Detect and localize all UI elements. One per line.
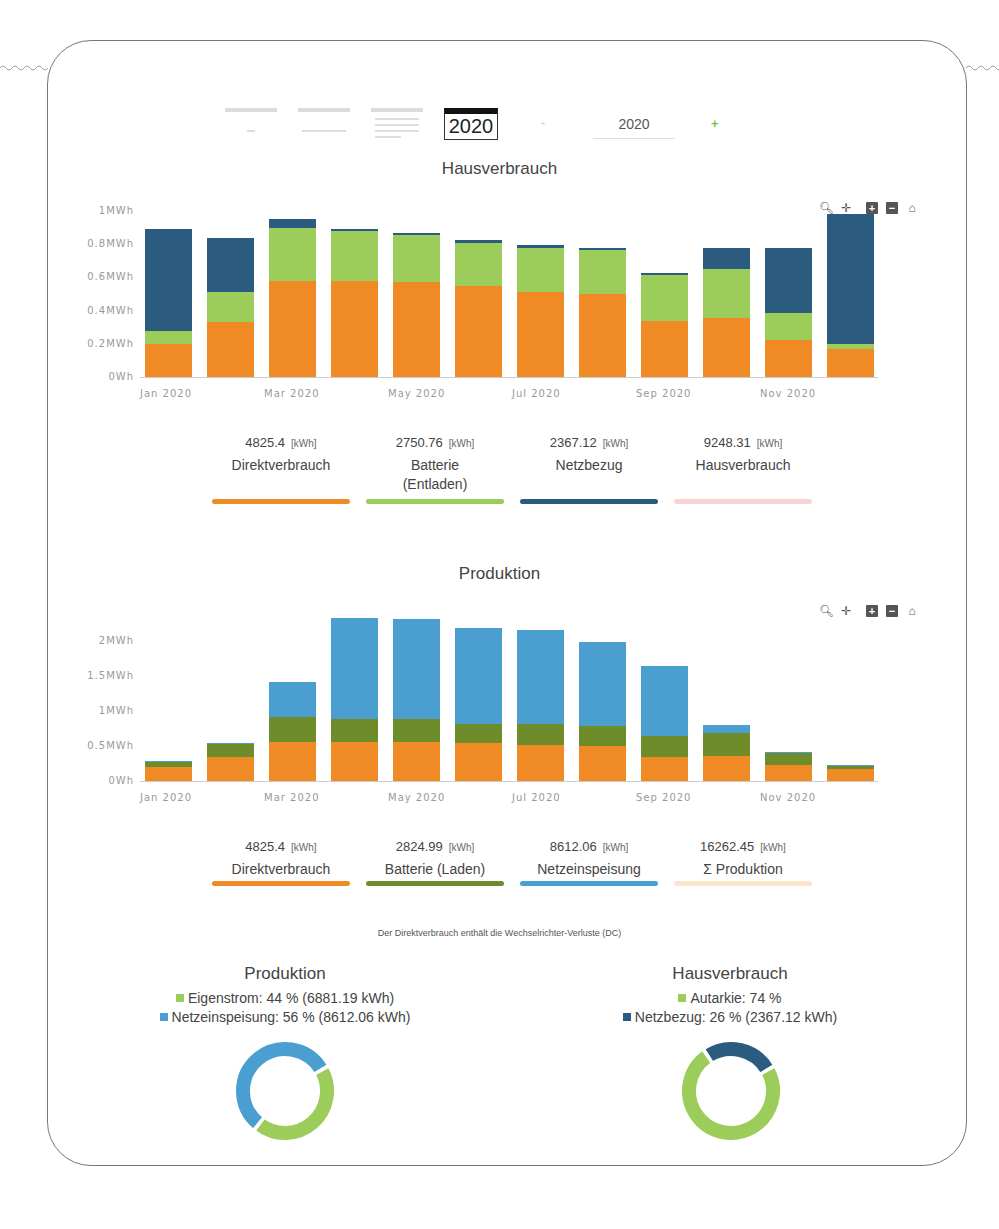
legend-autarkie[interactable]: Autarkie: 74 % [580,990,880,1006]
bar-segment [641,736,688,757]
produktion-stats: 4825.4[kWh] Direktverbrauch 2824.99[kWh]… [204,837,820,879]
bar-segment [703,756,750,781]
bar-nov-2020[interactable] [765,752,812,781]
bar-segment [393,619,440,720]
bar-segment [641,757,688,781]
bar-mar-2020[interactable] [269,682,316,781]
bar-segment [579,746,626,781]
bar-segment [455,724,502,744]
y-axis-tick: 0.5MWh [74,740,134,751]
bar-segment [703,725,750,733]
produktion-bar-chart[interactable]: 0Wh0.5MWh1MWh1.5MWh2MWhJan 2020Mar 2020M… [0,0,999,820]
stat-direktverbrauch: 4825.4[kWh] Direktverbrauch [204,837,358,879]
legend-color-line [212,881,350,886]
zoom-in-icon[interactable]: + [866,605,878,617]
bar-oct-2020[interactable] [703,725,750,781]
bar-jun-2020[interactable] [455,628,502,781]
bar-segment [207,743,254,744]
y-axis-tick: 2MWh [74,635,134,646]
dc-loss-note: Der Direktverbrauch enthält die Wechselr… [0,928,999,938]
donut-slice[interactable] [704,1041,774,1073]
bar-segment [455,743,502,781]
bar-segment [145,767,192,781]
legend-swatch [623,1013,631,1021]
bar-segment [331,618,378,719]
legend-swatch [160,1013,168,1021]
legend-netzbezug[interactable]: Netzbezug: 26 % (2367.12 kWh) [580,1009,880,1025]
bar-may-2020[interactable] [393,619,440,781]
bar-segment [269,742,316,781]
hausverbrauch-pie-title: Hausverbrauch [580,964,880,984]
bar-segment [579,726,626,746]
produktion-donut-chart[interactable] [234,1040,336,1142]
x-axis-tick: Nov 2020 [760,792,816,803]
bar-segment [827,769,874,781]
bar-segment [765,752,812,753]
bar-segment [579,642,626,726]
hausverbrauch-pie-block: Hausverbrauch Autarkie: 74 % Netzbezug: … [580,964,880,1025]
produktion-pie-title: Produktion [135,964,435,984]
bar-segment [393,742,440,781]
bar-segment [827,766,874,769]
bar-sep-2020[interactable] [641,666,688,782]
stat-summe-produktion: 16262.45[kWh] Σ Produktion [666,837,820,879]
zoom-icon[interactable]: 🔍︎ [820,605,832,617]
bar-segment [331,742,378,781]
bar-segment [331,719,378,742]
bar-segment [455,628,502,724]
y-axis-tick: 1.5MWh [74,670,134,681]
x-axis-line [140,781,878,782]
bar-segment [517,745,564,781]
bar-segment [207,757,254,781]
bar-aug-2020[interactable] [579,642,626,781]
legend-color-line [366,881,504,886]
bar-segment [145,761,192,767]
legend-eigenstrom[interactable]: Eigenstrom: 44 % (6881.19 kWh) [135,990,435,1006]
bar-segment [703,733,750,755]
y-axis-tick: 0Wh [74,775,134,786]
produktion-pie-block: Produktion Eigenstrom: 44 % (6881.19 kWh… [135,964,435,1025]
bar-jan-2020[interactable] [145,761,192,781]
bar-segment [517,630,564,725]
home-icon[interactable]: ⌂ [906,605,918,617]
pan-icon[interactable]: ✛ [840,605,852,617]
bar-segment [827,765,874,766]
bar-segment [145,761,192,762]
x-axis-tick: Jul 2020 [512,792,561,803]
x-axis-tick: Mar 2020 [264,792,320,803]
legend-swatch [176,994,184,1002]
bar-segment [517,724,564,745]
x-axis-tick: Sep 2020 [636,792,691,803]
bar-segment [269,717,316,742]
stat-netzeinspeisung: 8612.06[kWh] Netzeinspeisung [512,837,666,879]
legend-color-line [674,881,812,886]
bar-jul-2020[interactable] [517,630,564,781]
legend-netzeinspeisung[interactable]: Netzeinspeisung: 56 % (8612.06 kWh) [135,1009,435,1025]
x-axis-tick: Jan 2020 [140,792,192,803]
bar-segment [393,719,440,742]
bar-segment [269,682,316,717]
bar-segment [641,666,688,737]
bar-segment [765,765,812,781]
stat-batterie-laden: 2824.99[kWh] Batterie (Laden) [358,837,512,879]
bar-feb-2020[interactable] [207,743,254,781]
bar-segment [765,752,812,765]
hausverbrauch-donut-chart[interactable] [680,1040,782,1142]
bar-dec-2020[interactable] [827,765,874,781]
bar-apr-2020[interactable] [331,618,378,781]
legend-color-line [520,881,658,886]
produktion-chart-tools: 🔍︎ ✛ + − ⌂ [820,605,918,617]
donut-slice[interactable] [255,1067,335,1141]
legend-swatch [678,994,686,1002]
zoom-out-icon[interactable]: − [886,605,898,617]
bar-segment [207,744,254,757]
x-axis-tick: May 2020 [388,792,445,803]
y-axis-tick: 1MWh [74,705,134,716]
